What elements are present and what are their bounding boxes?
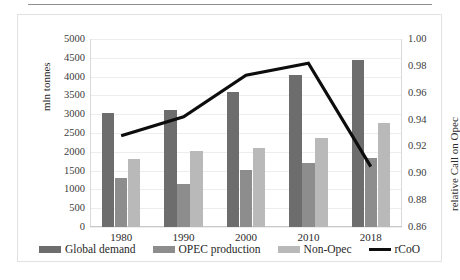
y-tick-label-right: 0.96 [408,88,448,98]
y-tick-label-right: 0.94 [408,115,448,125]
chart-legend: Global demandOPEC productionNon-OpecrCoO [17,238,442,260]
y-tick-label-right: 0.88 [408,195,448,205]
gridline [90,227,402,228]
legend-item-label: Global demand [65,243,136,255]
legend-swatch-icon [369,248,391,251]
top-divider [28,4,432,5]
y-axis-title-left: mln tonnes [40,62,52,111]
y-tick-label-left: 5000 [39,34,85,44]
legend-item[interactable]: rCoO [369,243,421,255]
y-tick-label-left: 2500 [39,128,85,138]
y-tick-label-left: 4000 [39,72,85,82]
y-tick-label-left: 500 [39,203,85,213]
y-tick-label-left: 1500 [39,166,85,176]
y-tick-label-left: 3000 [39,109,85,119]
y-tick-label-right: 0.98 [408,61,448,71]
y-tick-label-left: 3500 [39,90,85,100]
y-tick-label-left: 0 [39,222,85,232]
y-tick-label-left: 1000 [39,184,85,194]
y-tick-label-right: 1.00 [408,34,448,44]
legend-item[interactable]: Global demand [39,243,136,255]
y-tick-label-right: 0.92 [408,141,448,151]
y-tick-label-right: 0.90 [408,168,448,178]
legend-item-label: OPEC production [179,243,261,255]
chart-frame: mln tonnes relative Call on Opec 0500100… [17,14,442,262]
plot-area [90,39,402,227]
y-tick-label-right: 0.86 [408,222,448,232]
y-axis-title-right: relative Call on Opec [448,117,460,211]
legend-swatch-icon [39,246,61,253]
y-tick-label-left: 4500 [39,53,85,63]
y-tick-label-left: 2000 [39,147,85,157]
legend-item[interactable]: Non-Opec [278,243,352,255]
legend-item-label: rCoO [395,243,421,255]
legend-swatch-icon [153,246,175,253]
legend-item-label: Non-Opec [304,243,352,255]
legend-item[interactable]: OPEC production [153,243,261,255]
rcoo-line-path [121,63,371,166]
legend-swatch-icon [278,246,300,253]
line-series-rcoo [90,39,402,227]
